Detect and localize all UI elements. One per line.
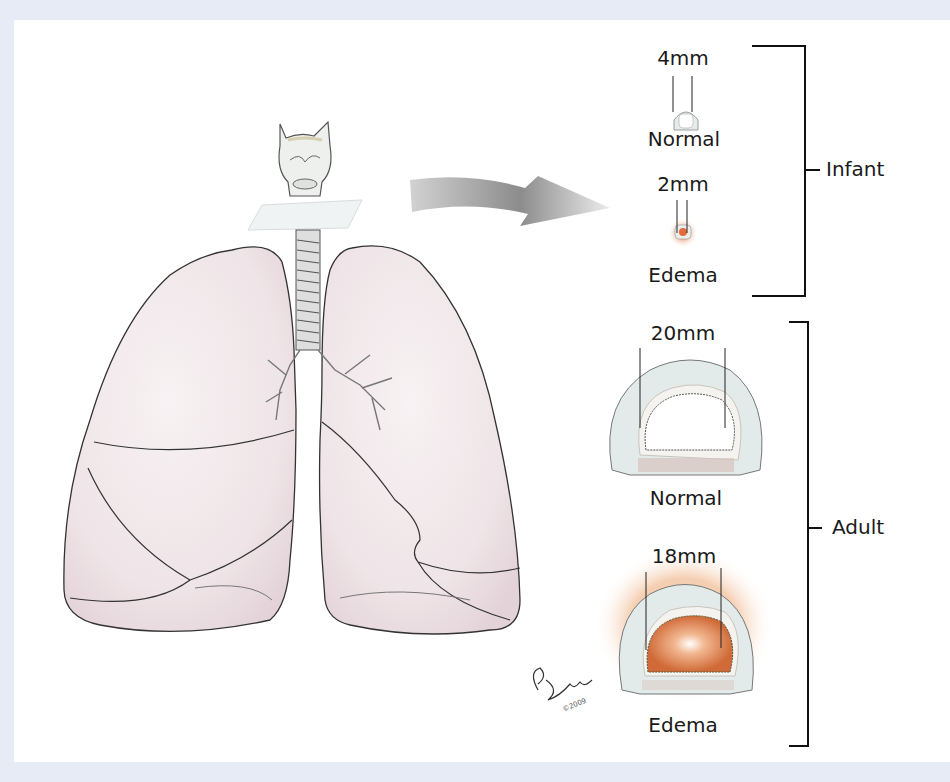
adult-bracket	[789, 322, 822, 746]
signature-scribble	[533, 668, 592, 700]
trachea	[296, 230, 320, 350]
infant-edema-label: Edema	[648, 263, 717, 287]
larynx	[279, 122, 331, 196]
adult-group-label: Adult	[832, 515, 884, 539]
infant-normal-diameter: 4mm	[657, 46, 709, 70]
infant-group-label: Infant	[826, 157, 884, 181]
adult-normal-airway	[610, 348, 762, 475]
infant-normal-label: Normal	[648, 127, 720, 151]
adult-edema-label: Edema	[648, 713, 717, 737]
adult-normal-diameter: 20mm	[651, 321, 715, 345]
infant-edema-airway	[668, 200, 698, 248]
adult-edema-airway	[594, 547, 774, 703]
infant-normal-airway	[673, 76, 698, 130]
infant-edema-diameter: 2mm	[657, 172, 709, 196]
section-plane	[248, 200, 362, 230]
infant-bracket	[752, 46, 820, 296]
right-lung	[64, 247, 296, 632]
airway-illustration	[0, 0, 950, 782]
adult-normal-label: Normal	[650, 486, 722, 510]
left-lung	[320, 246, 520, 634]
arrow-icon	[410, 176, 610, 226]
adult-edema-diameter: 18mm	[652, 544, 716, 568]
